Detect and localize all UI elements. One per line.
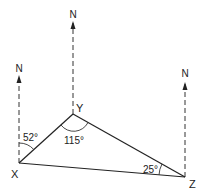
north-line-x: N: [15, 63, 22, 163]
angle-label-x: 52°: [23, 132, 38, 143]
north-label-z: N: [181, 68, 188, 79]
angle-arc-y: [61, 123, 88, 132]
north-arrow-icon: [17, 75, 22, 83]
north-line-y: N: [69, 9, 76, 114]
north-label-y: N: [69, 9, 76, 20]
bearing-diagram: N N N 52° 115° 25° X Y Z: [0, 0, 205, 193]
point-label-y: Y: [76, 102, 84, 114]
north-line-z: N: [181, 68, 188, 177]
angle-arc-x: [19, 143, 34, 150]
angle-arc-z: [159, 164, 162, 175]
north-arrow-icon: [71, 21, 76, 29]
angle-label-z: 25°: [143, 164, 158, 175]
side-yz: [73, 114, 185, 177]
point-label-z: Z: [189, 178, 196, 190]
point-label-x: X: [11, 168, 19, 180]
angle-label-y: 115°: [64, 135, 84, 146]
north-arrow-icon: [183, 82, 188, 90]
north-label-x: N: [15, 63, 22, 74]
